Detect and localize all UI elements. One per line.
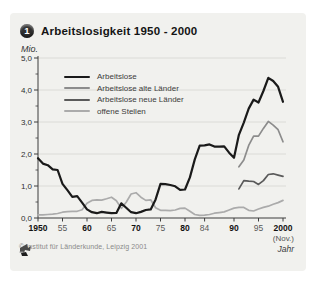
x-tick-label: 1950 bbox=[29, 223, 48, 233]
legend-item-arbeitslose: Arbeitslose bbox=[64, 71, 184, 83]
x-tick-label: 70 bbox=[131, 223, 141, 233]
legend-label: Arbeitslose alte Länder bbox=[97, 84, 179, 93]
legend-line-swatch-alte-laender bbox=[64, 87, 90, 89]
ifl-institute-logo bbox=[19, 243, 32, 257]
legend-line-swatch-neue-laender bbox=[64, 99, 90, 101]
x-tick-label: 84 bbox=[200, 223, 210, 233]
chart-header: 1 Arbeitslosigkeit 1950 - 2000 bbox=[20, 24, 197, 38]
y-tick-label: 0,0 bbox=[21, 214, 33, 223]
y-tick-label: 3,0 bbox=[21, 118, 33, 127]
y-tick-label: 2,0 bbox=[21, 150, 33, 159]
y-axis-unit-label: Mio. bbox=[21, 44, 38, 54]
y-tick-label: 4,0 bbox=[21, 86, 33, 95]
x-tick-label: 65 bbox=[107, 223, 117, 233]
x-tick-label: 55 bbox=[58, 223, 68, 233]
x-tick-label: 80 bbox=[180, 223, 190, 233]
x-tick-label: 60 bbox=[82, 223, 92, 233]
legend-label: Arbeitslose bbox=[97, 72, 137, 81]
legend-label: Arbeitslose neue Länder bbox=[97, 95, 184, 104]
legend-item-offene-stellen: offene Stellen bbox=[64, 106, 184, 118]
x-tick-label: 95 bbox=[254, 223, 264, 233]
copyright-text: © Institut für Länderkunde, Leipzig 2001 bbox=[19, 243, 147, 250]
legend-item-neue-laender: Arbeitslose neue Länder bbox=[64, 94, 184, 106]
x-tick-label: 75 bbox=[156, 223, 166, 233]
series-line-arbeitslose-neue-l-nder bbox=[239, 174, 283, 189]
legend-line-swatch-offene-stellen bbox=[64, 110, 90, 112]
x-tick-label: 90 bbox=[229, 223, 239, 233]
figure-number-badge: 1 bbox=[20, 24, 34, 38]
x-axis-november-note: (Nov.) bbox=[273, 234, 294, 243]
x-tick-label: 2000 bbox=[274, 223, 293, 233]
series-line-arbeitslose-alte-l-nder bbox=[239, 121, 283, 166]
x-axis-title: Jahr bbox=[277, 244, 294, 254]
chart-legend: Arbeitslose Arbeitslose alte Länder Arbe… bbox=[64, 71, 184, 117]
chart-title: Arbeitslosigkeit 1950 - 2000 bbox=[41, 25, 197, 37]
source-footer: © Institut für Länderkunde, Leipzig 2001 bbox=[19, 243, 147, 250]
y-tick-label: 5,0 bbox=[21, 54, 33, 63]
y-tick-label: 1,0 bbox=[21, 182, 33, 191]
legend-label: offene Stellen bbox=[97, 107, 146, 116]
legend-item-alte-laender: Arbeitslose alte Länder bbox=[64, 83, 184, 95]
figure: 5,04,03,02,01,00,01950556065707580849095… bbox=[0, 0, 316, 285]
legend-line-swatch-arbeitslose bbox=[64, 76, 90, 79]
